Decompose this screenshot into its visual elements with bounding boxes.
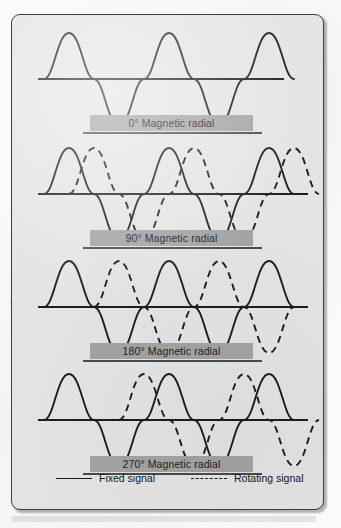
legend-item-fixed-signal: Fixed signal xyxy=(56,467,155,489)
legend-item-rotating-signal: Rotating signal xyxy=(191,467,303,489)
caption-underline-180 xyxy=(83,360,262,362)
caption-row-180: 180° Magnetic radial xyxy=(12,343,324,367)
figure-container: 0° Magnetic radial 90° Magnetic radial 1… xyxy=(11,14,324,510)
page-ghost-text xyxy=(12,516,316,522)
caption-bar-0: 0° Magnetic radial xyxy=(90,115,253,131)
caption-label-0: 0° Magnetic radial xyxy=(129,118,215,129)
caption-label-180: 180° Magnetic radial xyxy=(123,346,221,357)
legend: Fixed signal Rotating signal xyxy=(12,467,324,489)
caption-row-90: 90° Magnetic radial xyxy=(12,230,324,254)
legend-label-rotating-signal: Rotating signal xyxy=(234,473,303,484)
caption-label-90: 90° Magnetic radial xyxy=(126,233,218,244)
solid-line-swatch-icon xyxy=(56,478,92,479)
caption-row-0: 0° Magnetic radial xyxy=(12,115,324,139)
caption-underline-0 xyxy=(83,132,262,134)
caption-bar-180: 180° Magnetic radial xyxy=(90,343,253,359)
caption-underline-90 xyxy=(83,247,262,249)
caption-bar-90: 90° Magnetic radial xyxy=(90,230,253,246)
legend-label-fixed-signal: Fixed signal xyxy=(99,473,155,484)
dashed-line-swatch-icon xyxy=(191,478,227,479)
